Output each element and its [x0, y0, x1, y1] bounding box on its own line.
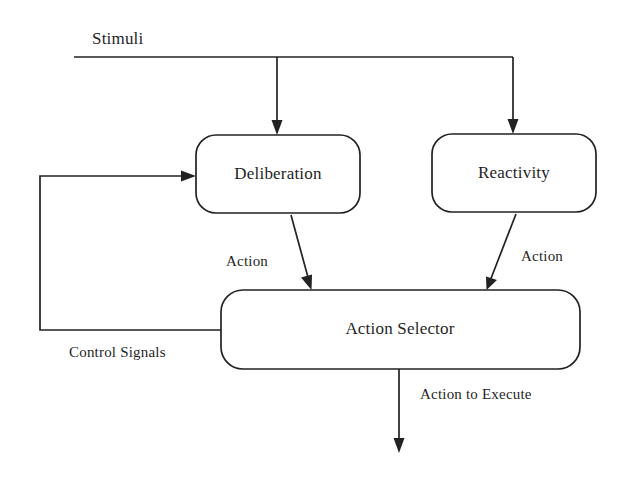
- action-label-right: Action: [521, 248, 563, 264]
- deliberation-to-selector-line: [291, 215, 309, 281]
- arrowhead-icon-reactivity-selector: [486, 277, 497, 291]
- arrowhead-icon-action-to-execute: [394, 438, 405, 453]
- deliberation-label: Deliberation: [234, 164, 322, 183]
- agent-architecture-diagram: Deliberation Reactivity Action Selector: [0, 0, 623, 479]
- edge-deliberation-to-action-selector: [291, 215, 312, 290]
- node-action-selector[interactable]: Action Selector: [221, 290, 580, 369]
- action-selector-label: Action Selector: [345, 319, 454, 338]
- edge-control-signals-feedback: [40, 171, 221, 331]
- node-deliberation[interactable]: Deliberation: [196, 135, 360, 213]
- edge-stimuli-to-deliberation: [272, 57, 283, 135]
- arrowhead-icon-stimuli-reactivity: [508, 119, 519, 134]
- node-reactivity[interactable]: Reactivity: [432, 134, 596, 212]
- arrowhead-icon-control-signals: [181, 171, 196, 182]
- action-label-left: Action: [226, 253, 268, 269]
- control-signals-path: [40, 176, 221, 330]
- control-signals-label: Control Signals: [69, 344, 166, 360]
- action-to-execute-label: Action to Execute: [420, 386, 532, 402]
- diagram-canvas-container: Deliberation Reactivity Action Selector: [0, 0, 623, 479]
- edge-action-to-execute-output: [394, 369, 405, 453]
- stimuli-label: Stimuli: [92, 29, 144, 48]
- reactivity-to-selector-line: [490, 214, 516, 281]
- arrowhead-icon-stimuli-deliberation: [272, 120, 283, 135]
- arrowhead-icon-deliberation-selector: [301, 275, 312, 291]
- edge-reactivity-to-action-selector: [486, 214, 516, 290]
- reactivity-label: Reactivity: [478, 163, 550, 182]
- edge-stimuli-to-reactivity: [508, 57, 519, 134]
